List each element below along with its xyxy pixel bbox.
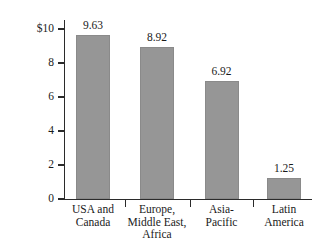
y-axis-line [64, 20, 65, 200]
y-tick-mark [58, 198, 64, 199]
category-label-line: USA and [60, 203, 126, 216]
bar-value-label: 9.63 [63, 19, 123, 31]
category-label: LatinAmerica [251, 203, 317, 228]
y-tick-label: 4 [4, 125, 54, 137]
bar [76, 35, 110, 199]
category-label-line: Europe, [124, 203, 190, 216]
bar-value-label: 1.25 [254, 162, 314, 174]
category-label: Asia-Pacific [189, 203, 255, 228]
category-label-line: Pacific [189, 216, 255, 229]
bar [267, 178, 301, 199]
bar-value-label: 6.92 [192, 65, 252, 77]
y-tick-label: 0 [4, 193, 54, 205]
category-label-line: Latin [251, 203, 317, 216]
y-tick-label: $10 [4, 23, 54, 35]
category-label-line: Middle East, [124, 216, 190, 229]
y-tick-mark [58, 130, 64, 131]
y-tick-label: 6 [4, 91, 54, 103]
revenue-bar-chart: Revenue in $billion $1086420 9.638.926.9… [0, 0, 323, 251]
y-tick-mark [58, 62, 64, 63]
y-tick-label: 2 [4, 159, 54, 171]
category-label-line: Asia- [189, 203, 255, 216]
y-tick-label: 8 [4, 57, 54, 69]
bar-value-label: 8.92 [127, 31, 187, 43]
category-label-line: Canada [60, 216, 126, 229]
category-label: USA andCanada [60, 203, 126, 228]
category-label-line: Africa [124, 228, 190, 241]
bar [140, 47, 174, 199]
y-tick-mark [58, 164, 64, 165]
category-label: Europe,Middle East,Africa [124, 203, 190, 241]
bar [205, 81, 239, 199]
y-tick-mark [58, 96, 64, 97]
category-label-line: America [251, 216, 317, 229]
